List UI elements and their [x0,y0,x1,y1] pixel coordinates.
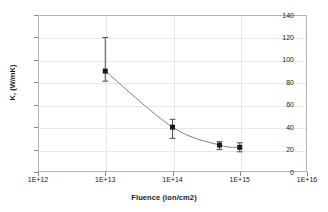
data-point-marker [217,143,222,148]
data-point-marker [103,69,108,74]
x-axis-title: Fluence (ion/cm2) [0,193,328,202]
data-point-group [217,142,223,150]
data-point-group [237,143,243,152]
thermal-conductivity-chart: 020406080100120140 1E+121E+131E+141E+151… [0,0,328,212]
data-series-layer [0,0,328,212]
data-point-marker [237,145,242,150]
data-point-group [102,37,108,81]
data-point-marker [170,125,175,130]
y-axis-title: K, (W/mK) [8,33,17,133]
data-point-group [170,119,176,138]
